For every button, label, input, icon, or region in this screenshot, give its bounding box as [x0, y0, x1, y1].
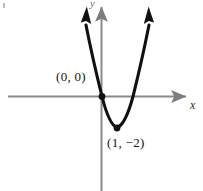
vertex-point-marker — [114, 125, 121, 132]
parabola-curve — [86, 25, 149, 128]
y-axis-label: y — [90, 0, 95, 9]
left-branch-arrowhead — [81, 7, 91, 25]
origin-point-label: (0, 0) — [56, 70, 86, 83]
axes-group — [8, 7, 186, 191]
right-branch-arrowhead — [144, 7, 154, 25]
vertex-point-label: (1, −2) — [107, 136, 145, 149]
graph-canvas — [0, 0, 203, 191]
parabola-curve-group — [81, 7, 154, 128]
x-axis-label: x — [190, 99, 195, 111]
parabola-figure: (0, 0) (1, −2) x y — [0, 0, 203, 191]
origin-point-marker — [99, 93, 106, 100]
